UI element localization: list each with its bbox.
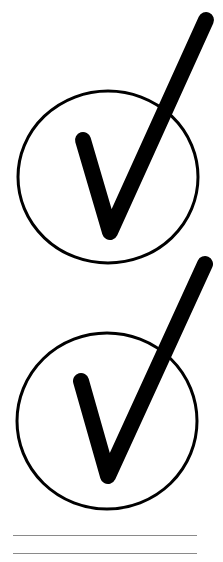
worksheet <box>0 0 223 562</box>
writing-line-2 <box>13 553 197 554</box>
writing-line-1 <box>13 535 197 536</box>
circled-checkmark-icon <box>0 0 223 562</box>
